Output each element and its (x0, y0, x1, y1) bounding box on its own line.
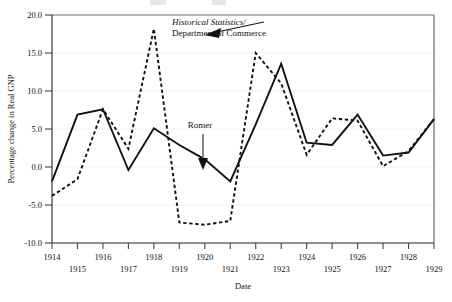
y-tick-label: 5.0 (31, 124, 42, 134)
y-gridlines (52, 53, 434, 205)
x-tick-label: 1929 (426, 264, 443, 274)
x-tick-label: 1926 (349, 252, 366, 262)
y-tick-label: 20.0 (27, 10, 42, 20)
x-tick-label: 1927 (375, 264, 392, 274)
annotation-arrowhead (198, 158, 208, 170)
series-line-romer (52, 64, 434, 182)
x-axis-ticks (52, 243, 434, 249)
cropped-title-remnant (150, 0, 226, 5)
y-axis-ticks (45, 15, 52, 243)
y-tick-label: -10.0 (24, 238, 42, 248)
y-tick-label: 0.0 (31, 162, 42, 172)
x-tick-label: 1921 (222, 264, 239, 274)
x-tick-label: 1928 (400, 252, 417, 262)
annotation-line2: Department of Commerce (172, 28, 266, 38)
x-axis-tick-labels: 1914191519161917191819191920192119221923… (44, 252, 443, 274)
gnp-line-chart: 20.0 15.0 10.0 5.0 0.0 -5.0 -10.0 Percen… (0, 0, 452, 302)
chart-figure: 20.0 15.0 10.0 5.0 0.0 -5.0 -10.0 Percen… (0, 0, 452, 302)
y-tick-label: 15.0 (27, 48, 42, 58)
x-tick-label: 1925 (324, 264, 341, 274)
x-tick-label: 1923 (273, 264, 290, 274)
x-tick-label: 1922 (247, 252, 264, 262)
x-tick-label: 1918 (145, 252, 162, 262)
annotation-historical-statistics: Historical Statistics/ Department of Com… (171, 17, 266, 38)
y-tick-label: -5.0 (29, 200, 42, 210)
x-tick-label: 1919 (171, 264, 188, 274)
x-tick-label: 1917 (120, 264, 137, 274)
y-axis-title: Percentage change in Real GNP (6, 74, 16, 183)
y-tick-label: 10.0 (27, 86, 42, 96)
y-axis-tick-labels: 20.0 15.0 10.0 5.0 0.0 -5.0 -10.0 (24, 10, 42, 248)
annotation-line1: Historical Statistics/ (171, 17, 247, 27)
annotation-romer-label: Romer (188, 120, 213, 130)
x-axis-title: Date (235, 281, 251, 291)
x-tick-label: 1924 (298, 252, 316, 262)
x-tick-label: 1920 (196, 252, 213, 262)
x-tick-label: 1914 (44, 252, 62, 262)
x-tick-label: 1916 (94, 252, 111, 262)
x-tick-label: 1915 (69, 264, 86, 274)
